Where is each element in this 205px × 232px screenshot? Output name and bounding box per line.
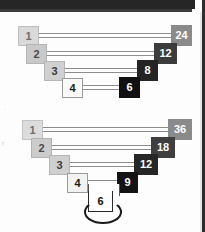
factor-value: 1	[29, 125, 35, 136]
factor-value: 2	[33, 49, 39, 60]
pair-link-3-12	[67, 162, 137, 167]
factor-box-3[interactable]: 3	[49, 155, 70, 175]
pair-link-2-12	[44, 51, 157, 56]
factor-box-6[interactable]: 6	[119, 77, 140, 98]
factor-box-8[interactable]: 8	[137, 60, 158, 81]
factor-value: 12	[159, 48, 171, 59]
chart-factors-of-36: 1 36 2 18 3 12 4 9 6	[0, 112, 197, 232]
factor-value: 6	[126, 82, 132, 93]
pair-link-2-18	[49, 145, 154, 150]
pair-link-1-36	[40, 127, 172, 132]
factor-box-1[interactable]: 1	[18, 26, 39, 46]
scan-edge-right	[202, 0, 205, 232]
factor-box-1[interactable]: 1	[22, 120, 43, 140]
chart-factors-of-24: 1 24 2 12 3 8 4 6	[0, 12, 197, 98]
factor-value: 18	[157, 142, 169, 153]
diagram-canvas: r · 1 24 2 12 3 8 4 6	[0, 0, 205, 232]
pair-link-1-24	[36, 33, 176, 38]
factor-value: 12	[140, 159, 152, 170]
factor-value: 9	[124, 177, 130, 188]
factor-value: 3	[51, 66, 57, 77]
self-pair-loop-icon	[84, 200, 122, 224]
factor-box-4[interactable]: 4	[67, 173, 88, 193]
pair-link-4-6	[80, 85, 122, 90]
factor-box-9[interactable]: 9	[117, 172, 138, 193]
scan-edge-top	[0, 0, 195, 9]
factor-value: 2	[38, 143, 44, 154]
factor-value: 24	[175, 30, 187, 41]
factor-value: 4	[74, 178, 80, 189]
factor-value: 36	[174, 124, 186, 135]
factor-value: 4	[69, 83, 75, 94]
factor-box-4[interactable]: 4	[62, 78, 83, 98]
factor-value: 8	[144, 65, 150, 76]
pair-link-3-8	[62, 68, 140, 73]
scan-edge-right-inner	[200, 12, 202, 232]
factor-value: 3	[56, 160, 62, 171]
factor-value: 1	[25, 31, 31, 42]
